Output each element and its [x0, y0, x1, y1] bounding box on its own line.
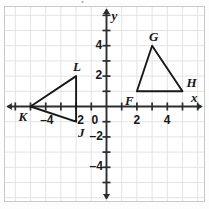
vertex-label-F: F: [125, 93, 134, 109]
y-axis-label: y: [112, 8, 118, 24]
y-tick-label-4: 4: [96, 38, 103, 52]
vertex-label-K: K: [19, 109, 28, 125]
vertex-label-H: H: [187, 75, 197, 91]
x-tick-label-2: 2: [133, 113, 140, 127]
x-axis-label: x: [191, 90, 198, 106]
triangle-FGH: [137, 46, 183, 92]
vertex-label-L: L: [73, 59, 81, 75]
clipped-header-text: ▀▀▀ ▀▀ ▀ ▀▀,▀▀: [4, 0, 124, 3]
coordinate-plane: y x 0 –4–22442–2–4 KLJFGH: [4, 6, 205, 202]
grid-and-axes: [5, 7, 204, 201]
x-tick-label--4: –4: [40, 113, 53, 127]
x-tick-label-4: 4: [164, 113, 171, 127]
y-tick-label-2: 2: [96, 68, 103, 82]
figure-canvas: ▀▀▀ ▀▀ ▀ ▀▀,▀▀ y x 0 –4–22442–2–4 KLJFGH: [0, 0, 209, 209]
y-tick-label--4: –4: [90, 159, 103, 173]
origin-tick-label: 0: [92, 113, 99, 127]
y-tick-label--2: –2: [90, 129, 103, 143]
vertex-label-J: J: [78, 125, 85, 141]
vertex-label-G: G: [149, 29, 158, 45]
